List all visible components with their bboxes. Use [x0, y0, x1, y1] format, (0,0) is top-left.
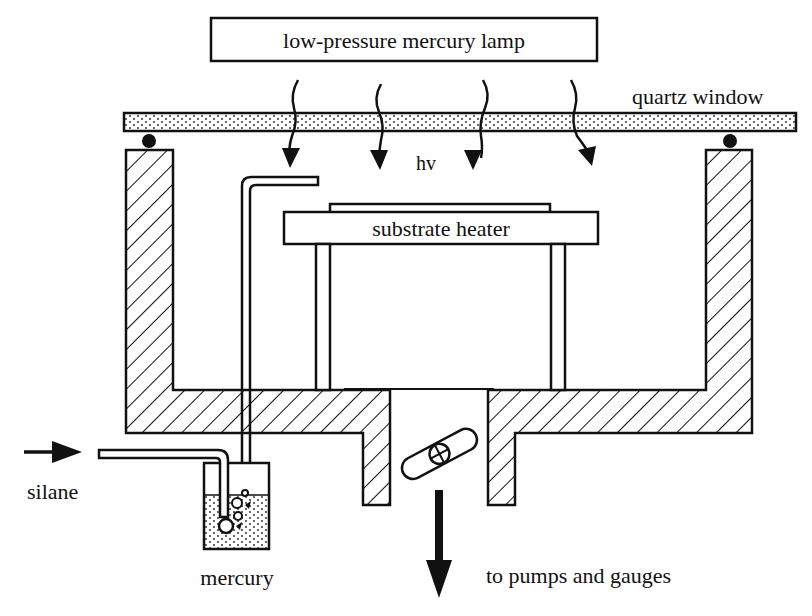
quartz-window — [124, 113, 796, 131]
o-ring-right — [723, 134, 737, 148]
photo-cvd-reactor-diagram: low-pressure mercury lamp hv quartz wind… — [0, 0, 812, 616]
exhaust-label: to pumps and gauges — [486, 563, 671, 588]
silane-arrow-icon — [24, 441, 82, 463]
mercury-lamp: low-pressure mercury lamp — [211, 18, 597, 61]
photon-label: hv — [416, 152, 436, 174]
o-ring-left — [142, 134, 156, 148]
exhaust-arrow-icon — [426, 490, 452, 598]
bubbler-label: mercury — [200, 565, 273, 590]
heater-label: substrate heater — [372, 216, 510, 241]
heater-support-left — [316, 244, 330, 390]
mercury-bubbler — [204, 463, 269, 549]
quartz-window-label: quartz window — [632, 84, 763, 109]
silane-label: silane — [27, 479, 78, 504]
heater-support-right — [551, 244, 565, 390]
substrate-heater: substrate heater — [284, 204, 598, 390]
throttle-valve — [398, 425, 481, 483]
lamp-label: low-pressure mercury lamp — [283, 28, 525, 53]
